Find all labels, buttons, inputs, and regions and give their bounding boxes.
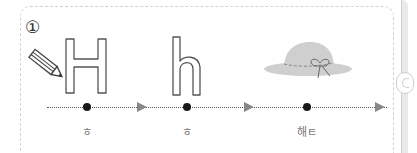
letter-h-tracing (170, 34, 204, 98)
arrow-icon (137, 102, 147, 112)
sound-label: ㅎ (167, 123, 207, 139)
sound-dot (83, 103, 91, 111)
hat-picture (262, 38, 354, 88)
letter-H-tracing (62, 35, 112, 97)
sound-label: ㅎ (67, 123, 107, 139)
arrow-icon (244, 102, 254, 112)
arrow-icon (375, 102, 385, 112)
exercise-number: ① (25, 17, 40, 37)
sound-dot (183, 103, 191, 111)
sound-dot (303, 103, 311, 111)
page-tab[interactable] (396, 72, 414, 94)
sound-label: 해ㅌ (287, 123, 327, 139)
dotted-line (47, 107, 387, 108)
